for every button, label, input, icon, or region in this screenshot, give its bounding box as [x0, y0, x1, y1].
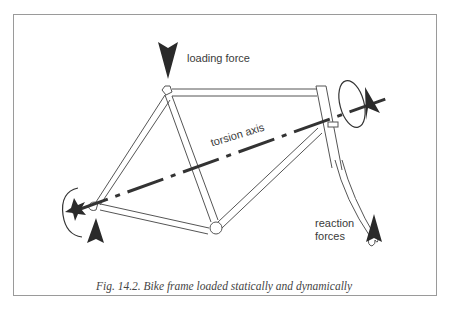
- reaction-forces-label-line1: reaction: [315, 217, 354, 230]
- bottom-bracket: [210, 222, 222, 234]
- headset-lug: [328, 122, 338, 127]
- reaction-forces-label-line2: forces: [315, 230, 345, 243]
- bike-frame-diagram: [0, 0, 456, 314]
- front-reaction-arrow-icon: [366, 214, 382, 242]
- front-torsion-arrow-icon: [365, 87, 380, 120]
- loading-force-arrow-icon: [158, 42, 178, 79]
- frame-tubes: [96, 86, 376, 238]
- figure-caption: Fig. 14.2. Bike frame loaded statically …: [96, 280, 352, 292]
- rear-reaction-arrow-icon: [87, 218, 104, 243]
- front-rotation-ellipse: [334, 78, 370, 131]
- seat-clamp: [162, 86, 172, 95]
- loading-force-label: loading force: [187, 52, 250, 65]
